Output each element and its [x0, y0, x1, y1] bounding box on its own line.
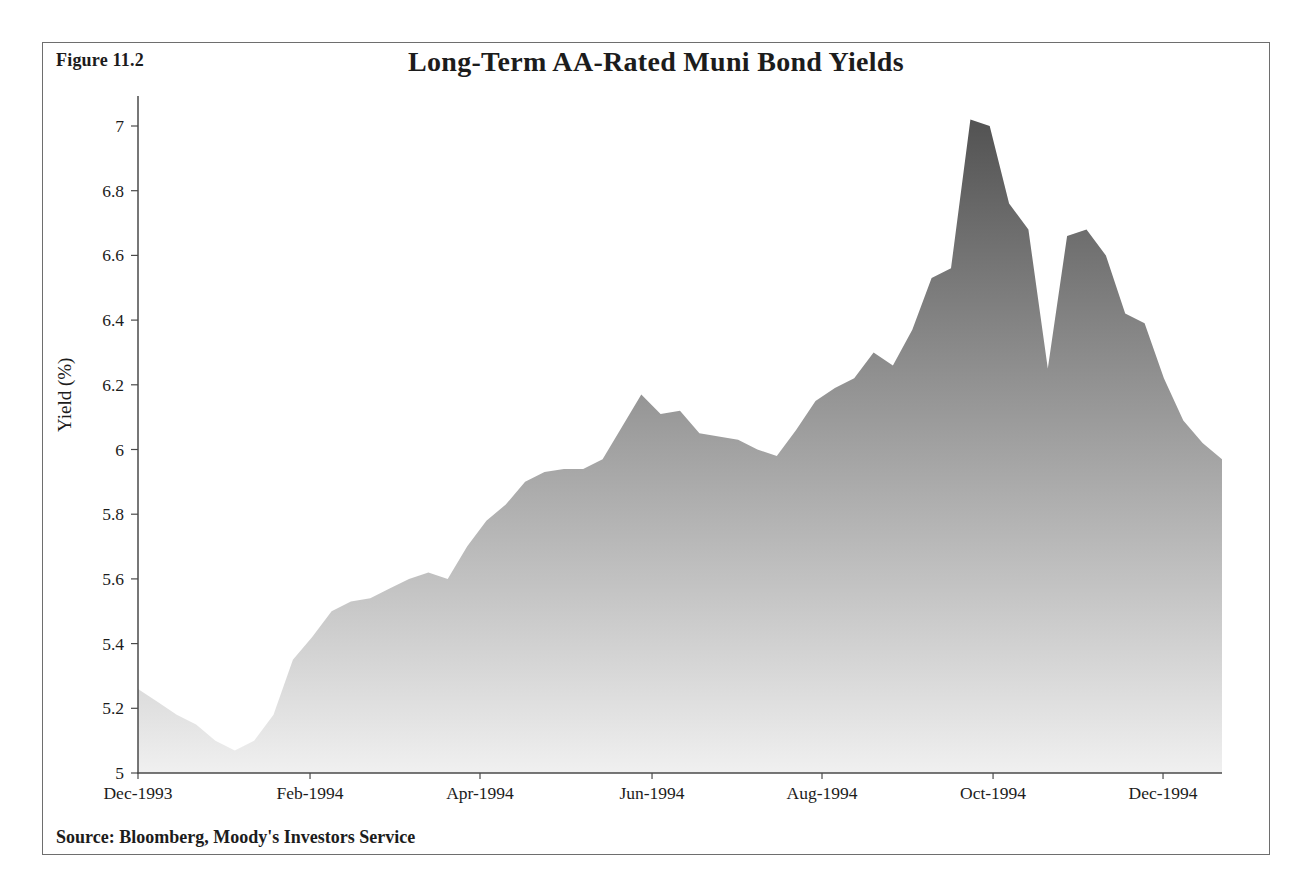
y-tick-label: 6: [115, 440, 124, 460]
y-tick-label: 6.6: [102, 245, 124, 265]
y-axis-title: Yield (%): [54, 358, 76, 432]
x-tick-label: Dec-1994: [1129, 783, 1198, 803]
source-note: Source: Bloomberg, Moody's Investors Ser…: [56, 827, 415, 848]
x-tick-label: Aug-1994: [787, 783, 858, 803]
y-tick-label: 5.6: [102, 569, 124, 589]
chart-title: Long-Term AA-Rated Muni Bond Yields: [42, 46, 1270, 78]
x-tick-label: Feb-1994: [276, 783, 343, 803]
x-tick-label: Apr-1994: [446, 783, 514, 803]
y-tick-label: 5.8: [102, 504, 124, 524]
y-tick-label: 5.4: [102, 634, 124, 654]
muni-bond-yield-area-chart: 55.25.45.65.866.26.46.66.87Dec-1993Feb-1…: [0, 0, 1301, 893]
scanned-figure-page: 55.25.45.65.866.26.46.66.87Dec-1993Feb-1…: [0, 0, 1301, 893]
y-tick-label: 5: [115, 763, 124, 783]
x-tick-label: Jun-1994: [619, 783, 684, 803]
y-tick-label: 6.4: [102, 310, 124, 330]
y-tick-label: 6.8: [102, 181, 124, 201]
y-tick-label: 6.2: [102, 375, 124, 395]
yield-area-series: [138, 120, 1222, 774]
x-tick-label: Oct-1994: [960, 783, 1026, 803]
x-tick-label: Dec-1993: [103, 783, 172, 803]
y-tick-label: 7: [115, 116, 124, 136]
y-tick-label: 5.2: [102, 698, 124, 718]
